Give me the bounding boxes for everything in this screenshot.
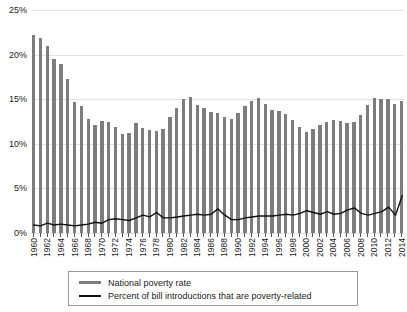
poverty-rate-chart: 0%5%10%15%20%25% 19601962196419661968197… — [0, 0, 407, 312]
x-tick-label: 1960 — [29, 238, 38, 257]
legend-item-poverty-rate: National poverty rate — [75, 276, 351, 289]
x-tick-mark — [74, 233, 75, 237]
x-tick-mark — [237, 233, 238, 237]
y-axis: 0%5%10%15%20%25% — [0, 0, 30, 243]
x-tick-label: 1972 — [111, 238, 120, 257]
x-tick-mark — [183, 233, 184, 237]
x-tick-mark — [387, 233, 388, 237]
x-tick: 2008 — [359, 233, 362, 273]
x-tick-mark — [176, 233, 177, 237]
x-tick: 1978 — [155, 233, 158, 273]
x-tick: 1960 — [32, 233, 35, 273]
x-tick-mark — [217, 233, 218, 237]
x-tick-mark — [326, 233, 327, 237]
x-tick-mark — [394, 233, 395, 237]
y-tick-label: 0% — [14, 229, 27, 238]
x-tick: 2004 — [332, 233, 335, 273]
y-tick-label: 15% — [9, 95, 27, 104]
x-tick-mark — [135, 233, 136, 237]
x-tick-mark — [299, 233, 300, 237]
x-tick: 1992 — [250, 233, 253, 273]
x-tick-mark — [367, 233, 368, 237]
x-tick-mark — [271, 233, 272, 237]
x-tick: 2000 — [305, 233, 308, 273]
x-tick-label: 1966 — [70, 238, 79, 257]
x-tick-mark — [128, 233, 129, 237]
x-tick-mark — [333, 233, 334, 237]
x-tick-mark — [122, 233, 123, 237]
x-tick-mark — [346, 233, 347, 237]
x-tick-mark — [224, 233, 225, 237]
x-tick-mark — [60, 233, 61, 237]
y-tick-label: 25% — [9, 6, 27, 15]
x-tick-mark — [203, 233, 204, 237]
legend-swatch-bill-introductions — [79, 295, 101, 297]
chart-legend: National poverty rate Percent of bill in… — [68, 271, 358, 306]
x-tick-label: 1964 — [57, 238, 66, 257]
x-tick-label: 1976 — [138, 238, 147, 257]
legend-item-bill-introductions: Percent of bill introductions that are p… — [75, 289, 351, 302]
x-tick-label: 2010 — [370, 238, 379, 257]
line-series — [32, 10, 404, 233]
x-tick-label: 2012 — [384, 238, 393, 257]
x-tick-mark — [251, 233, 252, 237]
x-tick-mark — [401, 233, 402, 237]
x-tick-mark — [94, 233, 95, 237]
x-tick-mark — [53, 233, 54, 237]
x-tick: 1988 — [223, 233, 226, 273]
x-tick-mark — [244, 233, 245, 237]
x-tick: 1972 — [114, 233, 117, 273]
x-tick-label: 1994 — [261, 238, 270, 257]
x-tick-mark — [312, 233, 313, 237]
x-tick: 1974 — [127, 233, 130, 273]
x-tick: 1966 — [73, 233, 76, 273]
line-path — [34, 196, 403, 226]
x-tick-label: 1980 — [166, 238, 175, 257]
x-tick-label: 1998 — [288, 238, 297, 257]
x-tick-label: 1970 — [98, 238, 107, 257]
x-tick-mark — [190, 233, 191, 237]
x-tick-label: 1992 — [247, 238, 256, 257]
x-tick-label: 2006 — [343, 238, 352, 257]
x-tick-label: 1984 — [193, 238, 202, 257]
x-tick-mark — [340, 233, 341, 237]
x-tick-mark — [374, 233, 375, 237]
x-tick: 1968 — [87, 233, 90, 273]
x-tick-label: 2004 — [329, 238, 338, 257]
x-tick-label: 2014 — [397, 238, 406, 257]
x-tick-mark — [142, 233, 143, 237]
x-tick-mark — [353, 233, 354, 237]
x-tick-mark — [360, 233, 361, 237]
x-tick: 2006 — [345, 233, 348, 273]
x-tick: 2014 — [400, 233, 403, 273]
x-tick-mark — [231, 233, 232, 237]
x-tick-label: 1990 — [234, 238, 243, 257]
x-tick-label: 2008 — [356, 238, 365, 257]
x-tick-mark — [47, 233, 48, 237]
x-tick-mark — [156, 233, 157, 237]
x-tick-label: 1996 — [275, 238, 284, 257]
x-tick-label: 2000 — [302, 238, 311, 257]
x-tick: 2012 — [386, 233, 389, 273]
legend-label-bill-introductions: Percent of bill introductions that are p… — [108, 291, 312, 301]
x-tick: 1964 — [59, 233, 62, 273]
x-tick: 1970 — [100, 233, 103, 273]
x-tick-mark — [210, 233, 211, 237]
x-tick: 1982 — [182, 233, 185, 273]
x-tick-mark — [88, 233, 89, 237]
x-tick-mark — [169, 233, 170, 237]
x-tick: 1976 — [141, 233, 144, 273]
x-tick-mark — [40, 233, 41, 237]
x-tick-mark — [265, 233, 266, 237]
x-tick: 1962 — [46, 233, 49, 273]
x-tick-mark — [67, 233, 68, 237]
x-tick-mark — [380, 233, 381, 237]
x-tick: 2010 — [373, 233, 376, 273]
x-tick-mark — [162, 233, 163, 237]
x-tick-mark — [292, 233, 293, 237]
x-tick: 1980 — [168, 233, 171, 273]
x-tick: 1994 — [264, 233, 267, 273]
legend-swatch-poverty-rate — [79, 281, 101, 284]
x-tick-mark — [258, 233, 259, 237]
x-tick-label: 1978 — [152, 238, 161, 257]
